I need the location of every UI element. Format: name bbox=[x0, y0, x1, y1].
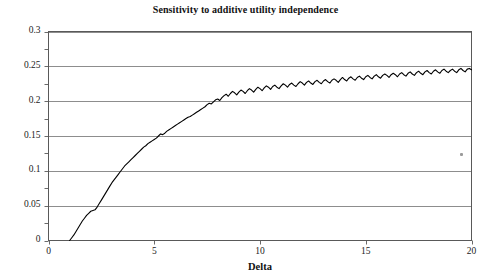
gridlines-group bbox=[49, 33, 472, 207]
scan-speck bbox=[460, 153, 463, 156]
x-tick-label-0: 0 bbox=[34, 246, 64, 256]
data-series-line bbox=[70, 68, 472, 240]
plot-canvas bbox=[0, 0, 491, 280]
y-tick-label-3: 0.15 bbox=[1, 130, 41, 140]
x-tick-label-4: 20 bbox=[457, 246, 487, 256]
y-tick-label-1: 0.05 bbox=[1, 199, 41, 209]
y-tick-label-0: 0 bbox=[1, 234, 41, 244]
y-tick-label-2: 0.1 bbox=[1, 164, 41, 174]
y-tick-label-4: 0.2 bbox=[1, 95, 41, 105]
x-tick-label-3: 15 bbox=[351, 246, 381, 256]
x-tick-label-1: 5 bbox=[139, 246, 169, 256]
x-tick-label-2: 10 bbox=[245, 246, 275, 256]
plot-border bbox=[49, 32, 472, 241]
chart-figure: Sensitivity to additive utility independ… bbox=[0, 0, 491, 280]
y-tick-label-5: 0.25 bbox=[1, 60, 41, 70]
x-axis-title: Delta bbox=[48, 261, 472, 272]
y-tick-label-6: 0.3 bbox=[1, 25, 41, 35]
y-tick-marks-group bbox=[45, 33, 49, 242]
x-tick-marks-group bbox=[50, 241, 473, 245]
